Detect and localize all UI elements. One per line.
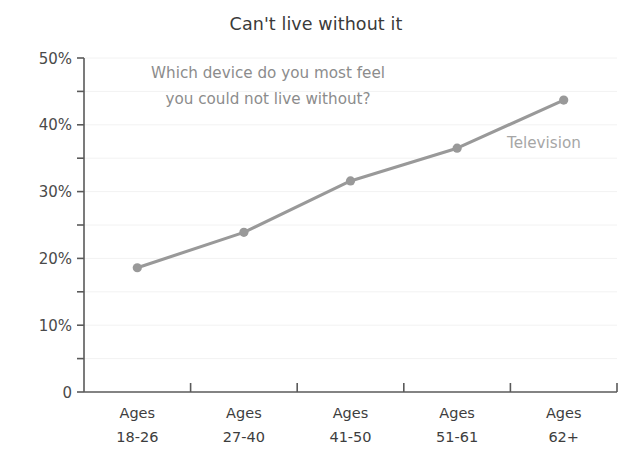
x-axis-tick-label: Ages bbox=[119, 405, 155, 421]
x-axis-tick-label: 41-50 bbox=[329, 429, 371, 445]
data-point-marker bbox=[133, 263, 142, 272]
chart-container: Can't live without it 010%20%30%40%50% A… bbox=[0, 0, 632, 473]
y-axis-tick-label: 50% bbox=[39, 50, 72, 68]
y-axis-tick-label: 0 bbox=[62, 384, 72, 402]
y-axis-labels-group: 010%20%30%40%50% bbox=[39, 50, 72, 402]
chart-annotation-line-1: Which device do you most feel bbox=[151, 64, 385, 82]
x-axis-tick-label: 18-26 bbox=[116, 429, 158, 445]
data-point-marker bbox=[453, 144, 462, 153]
series-markers-group bbox=[133, 95, 569, 272]
x-axis-tick-label: Ages bbox=[439, 405, 475, 421]
x-axis-tick-label: Ages bbox=[546, 405, 582, 421]
y-axis-tick-label: 40% bbox=[39, 116, 72, 134]
x-axis-tick-label: 62+ bbox=[548, 429, 579, 445]
y-axis-ticks-group bbox=[77, 58, 84, 392]
y-axis-tick-label: 20% bbox=[39, 250, 72, 268]
x-axis-tick-label: Ages bbox=[333, 405, 369, 421]
data-point-marker bbox=[239, 228, 248, 237]
y-axis-tick-label: 10% bbox=[39, 317, 72, 335]
x-axis-ticks-group bbox=[191, 383, 617, 392]
x-axis-tick-label: 27-40 bbox=[223, 429, 265, 445]
y-axis-tick-label: 30% bbox=[39, 183, 72, 201]
x-axis-tick-label: 51-61 bbox=[436, 429, 478, 445]
data-point-marker bbox=[559, 95, 568, 104]
x-axis-tick-label: Ages bbox=[226, 405, 262, 421]
data-point-marker bbox=[346, 176, 355, 185]
x-axis-labels-group: Ages18-26Ages27-40Ages41-50Ages51-61Ages… bbox=[116, 405, 581, 445]
series-label-television: Television bbox=[506, 134, 581, 152]
line-chart: 010%20%30%40%50% Ages18-26Ages27-40Ages4… bbox=[0, 0, 632, 473]
chart-annotation-line-2: you could not live without? bbox=[165, 90, 370, 108]
